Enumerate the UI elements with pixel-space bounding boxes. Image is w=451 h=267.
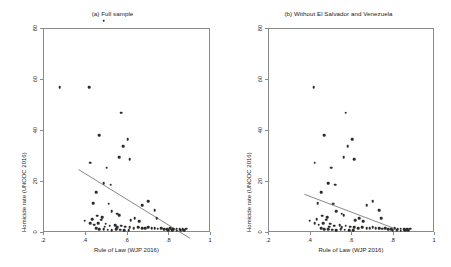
y-tick-label: 60 — [32, 74, 38, 84]
data-point — [97, 222, 100, 225]
data-point — [134, 217, 137, 220]
data-point — [101, 216, 104, 219]
data-point — [348, 229, 351, 232]
data-point — [330, 166, 333, 169]
x-tick-label: 1 — [208, 237, 211, 243]
data-point — [98, 228, 101, 231]
data-point — [371, 200, 374, 203]
data-point — [138, 220, 141, 223]
x-tick-mark — [127, 232, 128, 235]
x-tick-mark — [393, 232, 394, 235]
data-point — [110, 184, 113, 187]
data-point — [109, 225, 112, 228]
x-tick-label: .2 — [266, 237, 271, 243]
data-point — [361, 226, 364, 229]
x-tick-mark — [268, 232, 269, 235]
data-point — [106, 228, 109, 231]
data-point — [327, 182, 330, 185]
data-point — [83, 219, 86, 222]
data-point — [323, 228, 326, 231]
panel-full-sample: (a) Full sample Rule of Law (WJP 2016) H… — [0, 0, 225, 267]
y-tick-label: 40 — [32, 125, 38, 135]
data-point — [129, 219, 132, 222]
y-tick-mark — [40, 79, 43, 80]
data-point — [122, 145, 125, 148]
panel-b-fit-line — [268, 28, 434, 232]
data-point — [183, 229, 186, 232]
x-tick-mark — [434, 232, 435, 235]
x-tick-mark — [43, 232, 44, 235]
data-point — [119, 228, 122, 231]
y-tick-label: 40 — [257, 125, 263, 135]
data-point — [352, 229, 355, 232]
data-point — [320, 191, 323, 194]
data-point — [147, 200, 150, 203]
data-point — [354, 219, 357, 222]
data-point — [317, 202, 320, 205]
x-tick-mark — [351, 232, 352, 235]
y-tick-label: 60 — [257, 74, 263, 84]
x-tick-mark — [210, 232, 211, 235]
panel-a-title: (a) Full sample — [0, 10, 225, 17]
data-point — [92, 202, 95, 205]
data-point — [351, 138, 354, 141]
data-point — [102, 228, 105, 231]
y-tick-label: 80 — [257, 23, 263, 33]
data-point — [124, 225, 127, 228]
data-point — [349, 225, 352, 228]
data-point — [358, 217, 361, 220]
data-point — [98, 134, 101, 137]
y-tick-mark — [265, 181, 268, 182]
data-point — [395, 229, 398, 232]
data-point — [320, 227, 323, 230]
data-point — [400, 229, 403, 232]
data-point — [96, 214, 99, 217]
x-tick-label: .6 — [349, 237, 354, 243]
data-point — [335, 229, 338, 232]
data-point — [321, 214, 324, 217]
x-tick-label: .8 — [166, 237, 171, 243]
y-tick-mark — [40, 130, 43, 131]
data-point — [93, 223, 96, 226]
data-point — [91, 218, 94, 221]
data-point — [325, 218, 328, 221]
data-point — [345, 111, 348, 114]
data-point — [107, 202, 110, 205]
x-tick-mark — [85, 232, 86, 235]
y-tick-label: 80 — [32, 23, 38, 33]
x-tick-label: .4 — [82, 237, 87, 243]
x-tick-label: .2 — [41, 237, 46, 243]
x-tick-mark — [310, 232, 311, 235]
data-point — [58, 86, 61, 89]
data-point — [88, 86, 91, 89]
panel-b-y-axis-title: Homicide rate (UNODC 2016) — [246, 152, 252, 232]
data-point — [332, 202, 335, 205]
data-point — [111, 229, 114, 232]
data-point — [100, 218, 103, 221]
y-tick-mark — [40, 181, 43, 182]
y-tick-label: 0 — [257, 227, 263, 237]
data-point — [342, 156, 345, 159]
data-point — [362, 220, 365, 223]
data-point — [89, 222, 92, 225]
data-point — [137, 226, 140, 229]
data-point — [331, 228, 334, 231]
data-point — [343, 228, 346, 231]
y-tick-label: 20 — [32, 176, 38, 186]
y-tick-mark — [265, 28, 268, 29]
data-point — [118, 156, 121, 159]
data-point — [171, 229, 174, 232]
data-point — [353, 158, 356, 161]
y-tick-mark — [265, 79, 268, 80]
panel-b-title: (b) Without El Salvador and Venezuela — [226, 10, 451, 17]
y-tick-mark — [265, 130, 268, 131]
data-point — [334, 184, 337, 187]
data-point — [318, 223, 321, 226]
x-tick-label: 1 — [432, 237, 435, 243]
x-tick-label: .8 — [390, 237, 395, 243]
panel-a-fit-line — [43, 28, 210, 232]
data-point — [155, 217, 158, 220]
data-point — [327, 228, 330, 231]
data-point — [102, 20, 105, 23]
data-point — [128, 158, 131, 161]
